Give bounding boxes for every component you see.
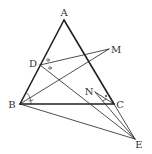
angle-arc-B1	[27, 93, 30, 98]
geometry-diagram: A B C D M N E	[0, 0, 152, 154]
angle-mark-dot-C	[105, 95, 107, 97]
triangle-figure: A B C D M N E	[0, 0, 152, 154]
angle-mark-circle-D2	[49, 67, 52, 70]
label-N: N	[85, 86, 94, 97]
label-C: C	[116, 99, 124, 110]
segment-DM	[40, 49, 109, 65]
segment-NE	[95, 92, 135, 139]
angle-mark-circle-D1	[47, 59, 50, 62]
label-M: M	[111, 44, 121, 55]
segment-AB	[20, 20, 64, 104]
angle-mark-C	[103, 99, 106, 101]
label-E: E	[135, 139, 142, 150]
label-D: D	[29, 58, 37, 69]
label-A: A	[59, 7, 68, 18]
label-B: B	[8, 99, 15, 110]
